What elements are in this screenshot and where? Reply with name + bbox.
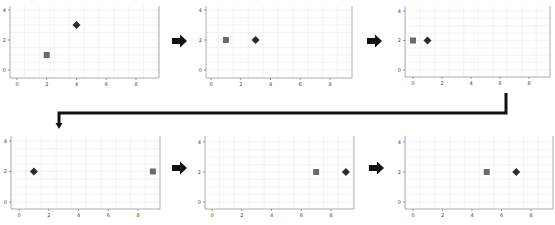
x-tick-label: 8 (328, 81, 331, 87)
x-tick-label: 8 (527, 80, 530, 86)
y-tick-label: 0 (3, 67, 6, 73)
x-tick-label: 6 (299, 81, 302, 87)
x-tick-label: 0 (411, 80, 414, 86)
diagram-canvas: 0246802402468024024680240246802402468024… (0, 0, 555, 225)
y-tick-label: 4 (198, 139, 201, 145)
square-marker (410, 38, 416, 44)
y-tick-label: 4 (199, 7, 202, 13)
y-tick-label: 2 (398, 169, 401, 175)
x-tick-label: 2 (239, 81, 242, 87)
y-tick-label: 4 (4, 138, 7, 144)
y-tick-label: 2 (3, 37, 6, 43)
x-tick-label: 0 (209, 81, 212, 87)
x-tick-label: 8 (134, 81, 137, 87)
y-tick-label: 2 (398, 37, 401, 43)
block-arrow-5-to-6 (369, 162, 384, 175)
x-tick-label: 0 (17, 212, 20, 218)
x-tick-label: 8 (529, 212, 532, 218)
plot-panel-2: 02468024 (199, 6, 352, 87)
x-tick-label: 0 (411, 212, 414, 218)
y-tick-label: 0 (199, 67, 202, 73)
x-tick-label: 6 (498, 80, 501, 86)
square-marker (223, 37, 229, 43)
square-marker (44, 52, 50, 58)
block-arrow-2-to-3 (367, 35, 382, 48)
x-tick-label: 6 (300, 212, 303, 218)
square-marker (484, 169, 490, 175)
plot-panel-1: 02468024 (3, 6, 159, 87)
x-tick-label: 0 (210, 212, 213, 218)
plot-panel-3: 02468024 (398, 6, 550, 86)
plot-panel-4: 02468024 (4, 136, 160, 218)
x-tick-label: 6 (105, 81, 108, 87)
y-tick-label: 2 (4, 168, 7, 174)
y-tick-label: 0 (198, 199, 201, 205)
elbow-connector-3-to-4 (56, 93, 507, 129)
square-marker (150, 169, 156, 175)
y-tick-label: 4 (3, 7, 6, 13)
x-tick-label: 4 (469, 80, 472, 86)
y-tick-label: 2 (199, 37, 202, 43)
plot-panel-6: 02468024 (398, 136, 553, 218)
x-tick-label: 8 (136, 212, 139, 218)
x-tick-label: 2 (45, 81, 48, 87)
y-tick-label: 2 (198, 169, 201, 175)
x-tick-label: 2 (441, 212, 444, 218)
y-tick-label: 0 (398, 199, 401, 205)
x-tick-label: 4 (75, 81, 78, 87)
plot-panel-5: 02468024 (198, 136, 354, 218)
y-tick-label: 4 (398, 139, 401, 145)
x-tick-label: 2 (240, 212, 243, 218)
block-arrow-4-to-5 (172, 162, 187, 175)
x-tick-label: 8 (329, 212, 332, 218)
y-tick-label: 4 (398, 8, 401, 14)
y-tick-label: 0 (4, 199, 7, 205)
x-tick-label: 4 (270, 212, 273, 218)
x-tick-label: 6 (500, 212, 503, 218)
x-tick-label: 6 (107, 212, 110, 218)
x-tick-label: 4 (77, 212, 80, 218)
block-arrow-1-to-2 (172, 35, 187, 48)
x-tick-label: 4 (269, 81, 272, 87)
y-tick-label: 0 (398, 67, 401, 73)
x-tick-label: 0 (15, 81, 18, 87)
x-tick-label: 4 (470, 212, 473, 218)
square-marker (313, 169, 319, 175)
x-tick-label: 2 (440, 80, 443, 86)
x-tick-label: 2 (47, 212, 50, 218)
